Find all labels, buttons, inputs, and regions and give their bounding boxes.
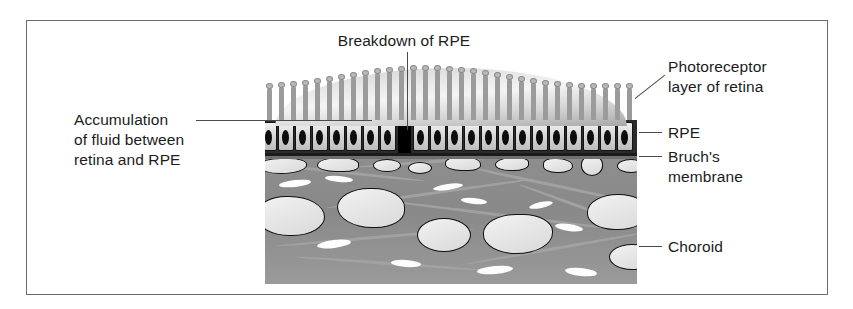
label-accumulation-line3: retina and RPE [74, 150, 184, 170]
label-accumulation-of-fluid: Accumulation of fluid between retina and… [74, 110, 184, 170]
leader-bruchs-membrane [639, 156, 662, 157]
label-rpe-line1: RPE [668, 123, 700, 143]
label-photoreceptor-layer: Photoreceptor layer of retina [668, 57, 767, 97]
leader-breakdown-of-rpe [407, 52, 408, 130]
label-choroid: Choroid [668, 237, 723, 257]
bruchs-membrane-shadow [265, 156, 637, 159]
label-rpe: RPE [668, 123, 700, 143]
label-bruchs-line1: Bruch's [668, 147, 743, 167]
leader-choroid [639, 246, 662, 247]
leader-accumulation-of-fluid [196, 120, 372, 121]
label-breakdown-of-rpe: Breakdown of RPE [338, 31, 471, 51]
photoreceptor-layer [265, 62, 637, 124]
label-photoreceptor-line1: Photoreceptor [668, 57, 767, 77]
leader-rpe [639, 132, 662, 133]
label-bruchs-membrane: Bruch's membrane [668, 147, 743, 187]
label-photoreceptor-line2: layer of retina [668, 77, 767, 97]
label-accumulation-line2: of fluid between [74, 130, 184, 150]
label-bruchs-line2: membrane [668, 167, 743, 187]
label-choroid-line1: Choroid [668, 237, 723, 257]
retina-cross-section-illustration [265, 62, 637, 284]
choroid-layer [265, 152, 637, 284]
label-breakdown-of-rpe-line1: Breakdown of RPE [338, 31, 471, 51]
label-accumulation-line1: Accumulation [74, 110, 184, 130]
